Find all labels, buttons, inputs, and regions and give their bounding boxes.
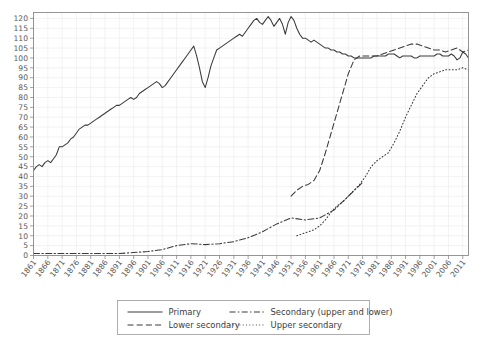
y-tick-label: 55 bbox=[18, 143, 28, 152]
y-tick-label: 105 bbox=[14, 44, 29, 53]
y-tick-label: 5 bbox=[23, 241, 28, 250]
series-line-lower-secondary bbox=[291, 44, 468, 196]
chart-container: 0510152025303540455055606570758085909510… bbox=[0, 0, 486, 345]
y-tick-label: 80 bbox=[18, 93, 28, 102]
chart-legend: PrimarySecondary (upper and lower)Lower … bbox=[118, 301, 393, 335]
legend-label: Primary bbox=[169, 307, 201, 317]
series-line-primary bbox=[34, 16, 469, 170]
x-axis: 1861186618711876188118861891189619011906… bbox=[19, 256, 467, 279]
legend-label: Secondary (upper and lower) bbox=[271, 307, 393, 317]
y-tick-label: 110 bbox=[14, 34, 29, 43]
series-line-upper-secondary bbox=[297, 68, 469, 236]
y-tick-label: 60 bbox=[18, 133, 28, 142]
plot-frame bbox=[34, 13, 469, 256]
y-tick-label: 85 bbox=[18, 83, 28, 92]
y-tick-label: 50 bbox=[18, 153, 28, 162]
y-tick-label: 75 bbox=[18, 103, 28, 112]
series-layer bbox=[34, 16, 469, 253]
y-tick-label: 90 bbox=[18, 73, 28, 82]
y-tick-label: 30 bbox=[18, 192, 28, 201]
legend-label: Lower secondary bbox=[169, 320, 240, 330]
y-tick-label: 70 bbox=[18, 113, 28, 122]
y-tick-label: 120 bbox=[14, 14, 29, 23]
y-tick-label: 115 bbox=[14, 24, 29, 33]
y-axis: 0510152025303540455055606570758085909510… bbox=[14, 14, 34, 260]
x-tick-label: 2011 bbox=[449, 258, 468, 279]
y-tick-label: 35 bbox=[18, 182, 28, 191]
y-tick-label: 20 bbox=[18, 212, 28, 221]
y-tick-label: 10 bbox=[18, 232, 28, 241]
line-chart: 0510152025303540455055606570758085909510… bbox=[0, 0, 486, 345]
y-tick-label: 65 bbox=[18, 123, 28, 132]
gridlines-layer bbox=[34, 13, 469, 256]
y-tick-label: 40 bbox=[18, 172, 28, 181]
legend-label: Upper secondary bbox=[271, 320, 342, 330]
series-line-secondary-upper-and-lower bbox=[34, 182, 363, 253]
y-tick-label: 45 bbox=[18, 162, 28, 171]
y-tick-label: 100 bbox=[14, 54, 29, 63]
y-tick-label: 15 bbox=[18, 222, 28, 231]
y-tick-label: 95 bbox=[18, 64, 28, 73]
y-tick-label: 0 bbox=[23, 251, 28, 260]
y-tick-label: 25 bbox=[18, 202, 28, 211]
